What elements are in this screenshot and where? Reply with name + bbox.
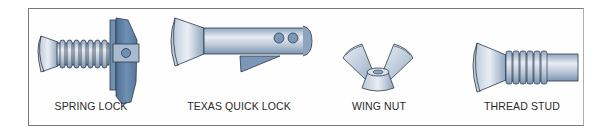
thread-stud-icon (0, 0, 612, 100)
thread-stud-item: THREAD STUD (0, 0, 612, 134)
thread-stud-label: THREAD STUD (484, 100, 560, 112)
